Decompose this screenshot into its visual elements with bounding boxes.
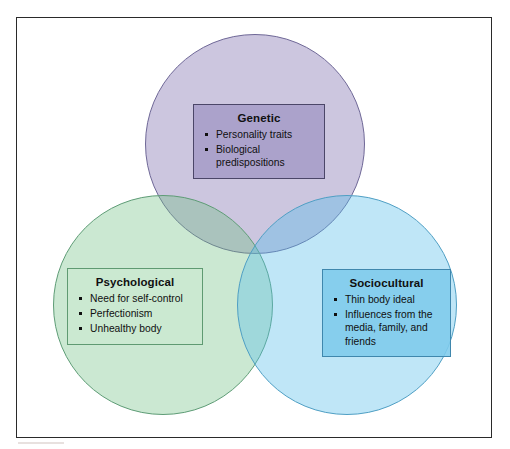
list-item-label: Thin body ideal	[345, 294, 415, 305]
list-item: Influences from the media, family, and f…	[332, 308, 441, 348]
bullet-list-psychological: Need for self-control Perfectionism Unhe…	[77, 292, 193, 336]
bullet-dot-icon	[79, 297, 82, 300]
list-item-label: Perfectionism	[90, 308, 152, 319]
list-item-label: Influences from the media, family, and f…	[345, 309, 433, 346]
label-box-genetic: Genetic Personality traits Biological pr…	[193, 104, 325, 179]
scan-artifact	[18, 442, 64, 444]
list-item: Unhealthy body	[77, 322, 193, 335]
bullet-list-genetic: Personality traits Biological predisposi…	[203, 128, 315, 170]
bullet-list-sociocultural: Thin body ideal Influences from the medi…	[332, 293, 441, 348]
list-item: Thin body ideal	[332, 293, 441, 306]
figure-frame: Genetic Personality traits Biological pr…	[16, 17, 492, 438]
bullet-dot-icon	[205, 148, 208, 151]
list-item: Need for self-control	[77, 292, 193, 305]
bullet-dot-icon	[334, 298, 337, 301]
label-title-genetic: Genetic	[203, 112, 315, 124]
bullet-dot-icon	[79, 312, 82, 315]
list-item-label: Unhealthy body	[90, 323, 162, 334]
label-box-sociocultural: Sociocultural Thin body ideal Influences…	[322, 269, 451, 357]
label-title-psychological: Psychological	[77, 276, 193, 288]
bullet-dot-icon	[334, 313, 337, 316]
list-item: Personality traits	[203, 128, 315, 141]
list-item-label: Biological predispositions	[216, 144, 285, 168]
label-box-psychological: Psychological Need for self-control Perf…	[67, 268, 203, 345]
list-item-label: Need for self-control	[90, 293, 183, 304]
label-title-sociocultural: Sociocultural	[332, 277, 441, 289]
list-item: Biological predispositions	[203, 143, 315, 169]
bullet-dot-icon	[79, 327, 82, 330]
list-item-label: Personality traits	[216, 129, 292, 140]
bullet-dot-icon	[205, 133, 208, 136]
list-item: Perfectionism	[77, 307, 193, 320]
